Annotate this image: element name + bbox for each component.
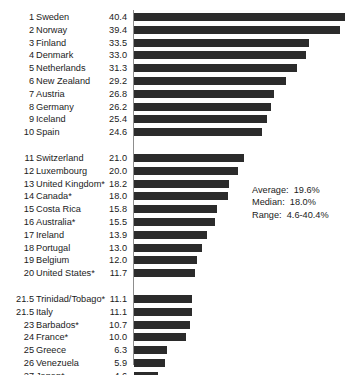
bar-chart: 1Sweden40.42Norway39.43Finland33.54Denma… [0, 0, 356, 375]
row-category-label: New Zealand [36, 75, 90, 88]
row-rank: 18 [0, 242, 34, 255]
bar [134, 39, 309, 47]
bar-track [134, 90, 274, 98]
row-value-label: 18.0 [97, 190, 127, 203]
stat-range: Range: 4.6-40.4% [252, 209, 329, 221]
bar [134, 321, 190, 329]
row-category-label: United Kingdom* [36, 178, 105, 191]
row-category-label: Canada* [36, 190, 72, 203]
row-rank: 9 [0, 113, 34, 126]
row-rank: 3 [0, 37, 34, 50]
table-row: 21.5Italy11.1 [0, 306, 356, 319]
row-rank: 21.5 [0, 306, 34, 319]
bar [134, 180, 229, 188]
row-rank: 10 [0, 126, 34, 139]
bar-track [134, 26, 340, 34]
bar-track [134, 39, 309, 47]
row-category-label: Japan* [36, 370, 65, 375]
row-value-label: 13.9 [97, 229, 127, 242]
bar [134, 218, 215, 226]
row-category-label: Sweden [36, 11, 69, 24]
bar [134, 192, 228, 200]
row-category-label: Germany [36, 101, 74, 114]
row-value-label: 33.5 [97, 37, 127, 50]
row-value-label: 18.2 [97, 178, 127, 191]
bar-track [134, 205, 217, 213]
row-category-label: Finland [36, 37, 66, 50]
row-category-label: Iceland [36, 113, 66, 126]
row-rank: 15 [0, 203, 34, 216]
table-row: 1Sweden40.4 [0, 11, 356, 24]
table-row: 12Luxembourg20.0 [0, 165, 356, 178]
row-value-label: 39.4 [97, 24, 127, 37]
row-rank: 26 [0, 357, 34, 370]
row-rank: 27 [0, 370, 34, 375]
table-row: 6New Zealand29.2 [0, 75, 356, 88]
row-value-label: 11.1 [97, 293, 127, 306]
row-category-label: Netherlands [36, 62, 86, 75]
bar [134, 51, 306, 59]
bar-track [134, 180, 229, 188]
row-category-label: Portugal [36, 242, 70, 255]
row-rank: 25 [0, 344, 34, 357]
row-rank: 21.5 [0, 293, 34, 306]
bar [134, 64, 297, 72]
stat-average: Average: 19.6% [252, 184, 329, 196]
table-row: 20United States*11.7 [0, 267, 356, 280]
summary-statistics-box: Average: 19.6% Median: 18.0% Range: 4.6-… [252, 184, 329, 221]
row-value-label: 13.0 [97, 242, 127, 255]
row-value-label: 31.3 [97, 62, 127, 75]
row-value-label: 29.2 [97, 75, 127, 88]
table-row: 11Switzerland21.0 [0, 152, 356, 165]
row-category-label: Switzerland [36, 152, 84, 165]
row-rank: 24 [0, 331, 34, 344]
row-category-label: Austria [36, 88, 65, 101]
row-rank: 8 [0, 101, 34, 114]
row-value-label: 25.4 [97, 113, 127, 126]
bar [134, 103, 271, 111]
row-value-label: 24.6 [97, 126, 127, 139]
table-row: 2Norway39.4 [0, 24, 356, 37]
bar-track [134, 77, 286, 85]
bar [134, 77, 286, 85]
bar [134, 13, 345, 21]
row-category-label: Trinidad/Tobago* [36, 293, 105, 306]
bar [134, 167, 238, 175]
bar-track [134, 321, 190, 329]
bar-track [134, 333, 186, 341]
table-row: 8Germany26.2 [0, 101, 356, 114]
bar-track [134, 192, 228, 200]
bar-track [134, 269, 195, 277]
row-value-label: 33.0 [97, 49, 127, 62]
row-value-label: 11.7 [97, 267, 127, 280]
bar-track [134, 256, 197, 264]
row-rank: 17 [0, 229, 34, 242]
bar [134, 359, 165, 367]
row-rank: 20 [0, 267, 34, 280]
bar-track [134, 115, 267, 123]
table-row: 5Netherlands31.3 [0, 62, 356, 75]
row-category-label: France* [36, 331, 68, 344]
table-row: 26Venezuela5.9 [0, 357, 356, 370]
row-value-label: 12.0 [97, 254, 127, 267]
row-value-label: 10.7 [97, 319, 127, 332]
row-rank: 16 [0, 216, 34, 229]
row-category-label: Spain [36, 126, 60, 139]
row-rank: 4 [0, 49, 34, 62]
bar-track [134, 51, 306, 59]
row-value-label: 21.0 [97, 152, 127, 165]
bar [134, 231, 207, 239]
bar [134, 205, 217, 213]
bar-track [134, 128, 262, 136]
row-category-label: Norway [36, 24, 67, 37]
row-value-label: 26.8 [97, 88, 127, 101]
row-value-label: 10.0 [97, 331, 127, 344]
bar [134, 244, 202, 252]
bar [134, 26, 340, 34]
table-row: 17Ireland13.9 [0, 229, 356, 242]
row-rank: 5 [0, 62, 34, 75]
row-category-label: Venezuela [36, 357, 79, 370]
bar-track [134, 308, 192, 316]
row-value-label: 15.5 [97, 216, 127, 229]
bar-track [134, 13, 345, 21]
